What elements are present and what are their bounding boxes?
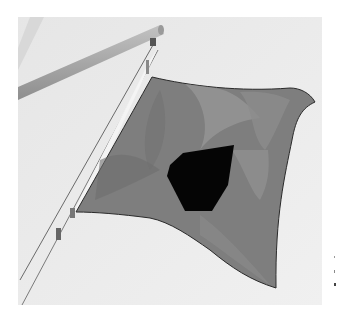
flag-photo [0, 0, 338, 322]
